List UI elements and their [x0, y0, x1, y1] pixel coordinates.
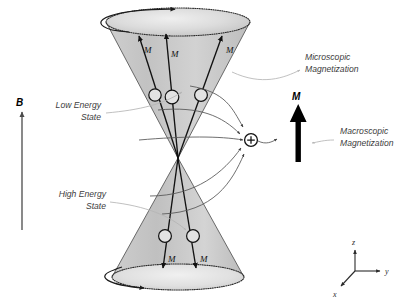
macroscopic-callout-line2: Magnetization: [340, 138, 394, 148]
spin-label-up-1: M: [143, 45, 152, 55]
low-energy-label-line2: State: [81, 112, 101, 122]
high-energy-label-line1: High Energy: [59, 189, 107, 199]
axis-y-label: y: [384, 267, 389, 276]
b-field-label: B: [16, 97, 23, 108]
microscopic-callout-line1: Microscopic: [305, 52, 351, 62]
macroscopic-arrow-head: [290, 104, 307, 122]
microscopic-callout-line2: Magnetization: [305, 64, 359, 74]
spin-label-down-1: M: [167, 254, 176, 264]
callout-leader-macroscopic: [312, 140, 334, 143]
high-energy-cone: [105, 158, 244, 290]
axis-z-label: z: [351, 238, 356, 247]
magnetization-diagram: M M M M M: [0, 0, 410, 307]
spin-marker-up-2: [165, 90, 179, 104]
callout-leader-microscopic: [232, 70, 300, 80]
low-energy-label-line1: Low Energy: [56, 100, 102, 110]
spin-marker-up-1: [149, 89, 161, 101]
spin-label-down-2: M: [199, 254, 208, 264]
spin-marker-down-2: [187, 230, 200, 243]
axis-x-line: [341, 271, 355, 286]
b-field-axis: B: [16, 97, 23, 230]
axis-x-label: x: [332, 290, 337, 299]
diagram-canvas: M M M M M: [0, 0, 410, 307]
spin-label-up-3: M: [225, 45, 234, 55]
sum-output-arrow: [258, 139, 277, 143]
macroscopic-callout-line1: Macroscopic: [340, 126, 389, 136]
spin-label-up-2: M: [170, 49, 179, 59]
spin-marker-up-3: [195, 89, 208, 102]
macroscopic-arrow-shaft: [296, 120, 301, 162]
macroscopic-magnetization-vector: M: [290, 91, 307, 162]
axes-triad: z y x: [332, 238, 389, 299]
sum-arrow-3: [139, 137, 243, 140]
high-energy-label-line2: State: [86, 201, 106, 211]
spin-marker-down-1: [159, 230, 172, 243]
macroscopic-vector-label: M: [292, 91, 301, 102]
